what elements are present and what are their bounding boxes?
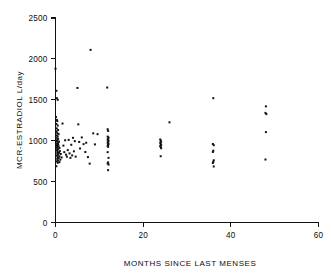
data-point	[66, 156, 68, 158]
data-point	[89, 163, 91, 165]
data-point	[85, 142, 87, 144]
data-point	[265, 105, 267, 107]
data-point	[72, 137, 74, 139]
data-point	[168, 121, 170, 123]
data-point	[58, 152, 60, 154]
data-point	[77, 123, 79, 125]
data-point	[75, 156, 77, 158]
y-tick-label: 2500	[28, 14, 47, 23]
y-tick-label: 0	[43, 219, 48, 228]
data-point	[55, 68, 57, 70]
data-point	[160, 155, 162, 157]
x-axis-title: MONTHS SINCE LAST MENSES	[124, 259, 257, 268]
data-point	[265, 131, 267, 133]
data-point	[107, 169, 109, 171]
data-point	[78, 141, 80, 143]
data-point	[76, 87, 78, 89]
data-point	[84, 151, 86, 153]
data-point	[90, 49, 92, 51]
data-point	[92, 132, 94, 134]
data-point	[55, 116, 57, 118]
data-point	[57, 162, 59, 164]
y-tick-label: 500	[33, 178, 48, 187]
data-point	[55, 165, 57, 167]
data-point	[94, 143, 96, 145]
data-point	[97, 133, 99, 135]
data-point	[74, 140, 76, 142]
data-point	[212, 162, 214, 164]
scatter-plot-figure: 05001000150020002500 0204060 MONTHS SINC…	[0, 0, 331, 274]
data-point	[108, 157, 110, 159]
data-point	[73, 150, 75, 152]
x-tick-label: 40	[226, 231, 236, 240]
data-point	[64, 139, 66, 141]
data-point	[70, 144, 72, 146]
data-point	[65, 154, 67, 156]
x-tick-label: 20	[138, 231, 148, 240]
data-point	[61, 156, 63, 158]
data-point	[107, 151, 109, 153]
data-point	[264, 159, 266, 161]
data-point	[213, 165, 215, 167]
data-point	[83, 143, 85, 145]
data-point	[79, 147, 81, 149]
data-point	[160, 147, 162, 149]
data-point	[265, 113, 267, 115]
data-point	[107, 146, 109, 148]
y-tick-label: 1500	[28, 96, 47, 105]
data-point	[62, 145, 64, 147]
data-point	[62, 123, 64, 125]
data-point	[81, 136, 83, 138]
y-axis-ticks: 05001000150020002500	[28, 14, 55, 228]
data-point	[57, 125, 59, 127]
data-point	[108, 164, 110, 166]
data-point	[87, 156, 89, 158]
data-point	[59, 159, 61, 161]
y-tick-label: 2000	[28, 55, 47, 64]
data-point	[58, 133, 60, 135]
data-point	[55, 90, 57, 92]
data-point	[55, 137, 57, 139]
data-point	[67, 149, 69, 151]
data-point-group	[55, 49, 268, 171]
data-point	[213, 144, 215, 146]
data-point	[106, 87, 108, 89]
data-point	[107, 130, 109, 132]
axes-lines	[55, 18, 319, 223]
y-tick-label: 1000	[28, 137, 47, 146]
data-point	[56, 120, 58, 122]
chart-canvas: 05001000150020002500 0204060 MONTHS SINC…	[0, 0, 331, 274]
data-point	[63, 151, 65, 153]
data-point	[69, 157, 71, 159]
data-point	[71, 154, 73, 156]
y-axis-title: MCR-ESTRADIOL L/day	[15, 71, 24, 169]
x-tick-label: 0	[53, 231, 58, 240]
data-point	[60, 153, 62, 155]
x-axis-ticks: 0204060	[53, 223, 323, 240]
data-point	[212, 97, 214, 99]
x-tick-label: 60	[314, 231, 324, 240]
data-point	[58, 161, 60, 163]
data-point	[68, 139, 70, 141]
data-point	[69, 152, 71, 154]
data-point	[57, 99, 59, 101]
data-point	[212, 151, 214, 153]
data-point	[57, 129, 59, 131]
